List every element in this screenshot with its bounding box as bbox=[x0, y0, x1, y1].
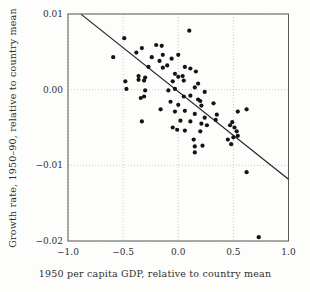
scatter-point bbox=[187, 29, 191, 33]
y-tick-label: −0.02 bbox=[35, 236, 63, 246]
scatter-point bbox=[181, 74, 185, 78]
scatter-point bbox=[166, 88, 170, 92]
scatter-point bbox=[203, 90, 207, 94]
scatter-point bbox=[230, 120, 234, 124]
scatter-point bbox=[159, 107, 163, 111]
scatter-point bbox=[236, 134, 240, 138]
scatter-point bbox=[123, 79, 127, 83]
y-tick-label: 0.00 bbox=[43, 85, 63, 95]
scatter-point bbox=[173, 110, 177, 114]
scatter-point bbox=[160, 44, 164, 48]
scatter-point bbox=[176, 53, 180, 57]
scatter-point bbox=[168, 100, 172, 104]
scatter-point bbox=[196, 82, 200, 86]
scatter-point bbox=[165, 63, 169, 67]
scatter-point bbox=[142, 78, 146, 82]
scatter-point bbox=[188, 66, 192, 70]
scatter-point bbox=[235, 129, 239, 133]
scatter-plot-figure: −1.0−0.50.00.51.00.010.00−0.01−0.02 1950… bbox=[0, 0, 310, 292]
scatter-plot-canvas: −1.0−0.50.00.51.00.010.00−0.01−0.02 bbox=[0, 0, 310, 292]
scatter-point bbox=[176, 103, 180, 107]
scatter-point bbox=[183, 109, 187, 113]
scatter-point bbox=[150, 55, 154, 59]
scatter-point bbox=[161, 53, 165, 57]
scatter-point bbox=[146, 65, 150, 69]
scatter-point bbox=[236, 110, 240, 114]
scatter-point bbox=[183, 65, 187, 69]
scatter-point bbox=[124, 87, 128, 91]
scatter-point bbox=[173, 87, 177, 91]
scatter-point bbox=[122, 36, 126, 40]
scatter-point bbox=[199, 122, 203, 126]
scatter-point bbox=[226, 138, 230, 142]
scatter-point bbox=[203, 116, 207, 120]
scatter-point bbox=[134, 50, 138, 54]
scatter-point bbox=[245, 170, 249, 174]
scatter-point bbox=[136, 78, 140, 82]
scatter-point bbox=[182, 94, 186, 98]
scatter-point bbox=[205, 123, 209, 127]
scatter-point bbox=[161, 66, 165, 70]
scatter-point bbox=[198, 99, 202, 103]
scatter-point bbox=[188, 94, 192, 98]
scatter-point bbox=[188, 119, 192, 123]
scatter-point bbox=[111, 55, 115, 59]
x-tick-label: 0.0 bbox=[171, 247, 186, 257]
x-axis-label: 1950 per capita GDP, relative to country… bbox=[0, 268, 310, 279]
scatter-point bbox=[136, 74, 140, 78]
scatter-point bbox=[182, 78, 186, 82]
scatter-point bbox=[178, 119, 182, 123]
scatter-point bbox=[171, 79, 175, 83]
scatter-point bbox=[143, 88, 147, 92]
scatter-point bbox=[198, 129, 202, 133]
scatter-point bbox=[140, 46, 144, 50]
scatter-point bbox=[193, 150, 197, 154]
scatter-point bbox=[170, 57, 174, 61]
scatter-point bbox=[232, 125, 236, 129]
y-tick-label: −0.01 bbox=[35, 160, 63, 170]
x-tick-label: −0.5 bbox=[112, 247, 134, 257]
scatter-point bbox=[257, 235, 261, 239]
scatter-point bbox=[173, 72, 177, 76]
scatter-point bbox=[231, 135, 235, 139]
y-axis-label: Growth rate, 1950–90, relative to countr… bbox=[7, 8, 18, 248]
scatter-point bbox=[229, 142, 233, 146]
scatter-point bbox=[199, 103, 203, 107]
scatter-point bbox=[193, 85, 197, 89]
scatter-point bbox=[142, 94, 146, 98]
x-tick-label: −1.0 bbox=[57, 247, 79, 257]
scatter-point bbox=[214, 118, 218, 122]
x-tick-label: 0.5 bbox=[226, 247, 241, 257]
scatter-point bbox=[194, 69, 198, 73]
scatter-point bbox=[175, 128, 179, 132]
scatter-point bbox=[200, 144, 204, 148]
scatter-point bbox=[215, 113, 219, 117]
y-tick-label: 0.01 bbox=[43, 9, 63, 19]
scatter-point bbox=[211, 101, 215, 105]
scatter-point bbox=[176, 75, 180, 79]
scatter-point bbox=[154, 43, 158, 47]
scatter-point bbox=[183, 128, 187, 132]
scatter-point bbox=[193, 112, 197, 116]
scatter-point bbox=[245, 107, 249, 111]
scatter-point bbox=[140, 119, 144, 123]
x-tick-label: 1.0 bbox=[281, 247, 296, 257]
scatter-point bbox=[192, 138, 196, 142]
scatter-point bbox=[157, 59, 161, 63]
scatter-point bbox=[193, 144, 197, 148]
scatter-point bbox=[171, 125, 175, 129]
